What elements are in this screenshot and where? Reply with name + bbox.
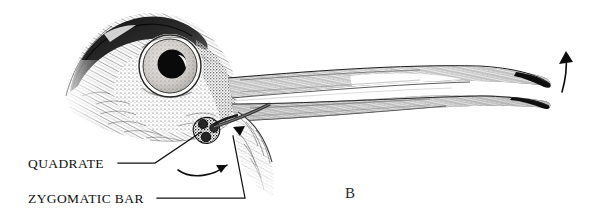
label-quadrate: QUADRATE bbox=[28, 156, 104, 171]
panel-letter: B bbox=[345, 185, 355, 201]
label-zygomatic-bar: ZYGOMATIC BAR bbox=[28, 191, 144, 206]
figure-container: QUADRATE ZYGOMATIC BAR B bbox=[0, 0, 591, 222]
eye bbox=[137, 34, 203, 98]
pupil bbox=[158, 50, 187, 79]
anatomical-illustration: QUADRATE ZYGOMATIC BAR B bbox=[0, 0, 591, 222]
